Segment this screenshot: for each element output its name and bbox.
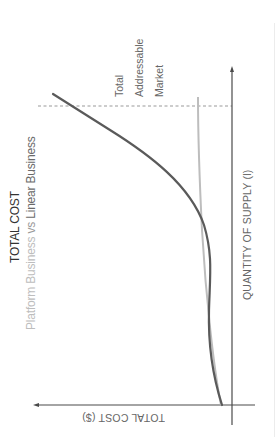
tam-label-line-2: Addressable xyxy=(129,39,149,97)
x-axis-label: QUANTITY OF SUPPLY (l) xyxy=(241,170,253,300)
chart-title: TOTAL COST xyxy=(8,191,22,263)
x-axis-arrow-icon xyxy=(230,66,234,72)
y-axis-label-text: TOTAL COST ($) xyxy=(82,412,165,424)
tam-label-line-3: Market xyxy=(149,39,169,97)
y-axis-label: TOTAL COST ($) xyxy=(82,412,165,424)
panel-border xyxy=(274,23,275,437)
chart-title-text: TOTAL COST xyxy=(8,191,22,263)
tam-label: Total Addressable Market xyxy=(109,39,169,97)
x-axis-label-text: QUANTITY OF SUPPLY (l) xyxy=(241,170,253,300)
y-axis-arrow-icon xyxy=(33,403,39,407)
subtitle-vs: vs xyxy=(24,219,38,237)
subtitle-platform: Platform Business xyxy=(24,237,38,330)
chart-subtitle: Platform Business vs Linear Business xyxy=(24,136,38,330)
subtitle-linear: Linear Business xyxy=(24,136,38,218)
tam-label-line-1: Total xyxy=(109,39,129,97)
linear-business-line xyxy=(53,94,222,405)
